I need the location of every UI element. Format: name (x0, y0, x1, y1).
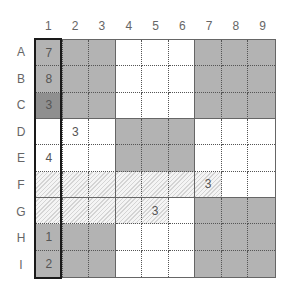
row-labels: ABCDEFGHI (12, 39, 30, 278)
row-label: B (12, 66, 30, 93)
column-label: 6 (169, 17, 196, 35)
column-label: 4 (115, 17, 142, 35)
grid-cell-h9[interactable] (248, 224, 275, 250)
grid-cell-f2[interactable] (63, 172, 90, 198)
grid-cell-h4[interactable] (116, 224, 143, 250)
grid-cell-b1[interactable]: 8 (36, 66, 63, 92)
grid-cell-g4[interactable] (116, 198, 143, 224)
sudoku-board: 783343312 (35, 39, 276, 278)
grid-cell-b2[interactable] (63, 66, 90, 92)
grid-cell-b4[interactable] (116, 66, 143, 92)
row-label: A (12, 39, 30, 66)
grid-cell-h7[interactable] (195, 224, 222, 250)
grid-cell-f8[interactable] (222, 172, 249, 198)
grid-cell-a6[interactable] (169, 40, 196, 66)
grid-cell-h2[interactable] (63, 224, 90, 250)
grid-cell-f6[interactable] (169, 172, 196, 198)
grid-cell-i9[interactable] (248, 251, 275, 277)
row-label: H (12, 225, 30, 252)
grid-cell-g9[interactable] (248, 198, 275, 224)
grid-cell-c4[interactable] (116, 93, 143, 119)
grid-cell-a5[interactable] (142, 40, 169, 66)
grid-cell-e2[interactable] (63, 145, 90, 171)
grid-cell-f1[interactable] (36, 172, 63, 198)
row-label: D (12, 119, 30, 146)
row-label: C (12, 92, 30, 119)
grid-cell-b6[interactable] (169, 66, 196, 92)
grid-cell-d2[interactable]: 3 (63, 119, 90, 145)
grid-cell-h6[interactable] (169, 224, 196, 250)
column-label: 5 (142, 17, 169, 35)
grid-cell-e8[interactable] (222, 145, 249, 171)
grid-cell-f5[interactable] (142, 172, 169, 198)
grid-cell-c5[interactable] (142, 93, 169, 119)
grid-cell-h3[interactable] (89, 224, 116, 250)
grid-cell-i8[interactable] (222, 251, 249, 277)
grid-cell-e4[interactable] (116, 145, 143, 171)
grid-cell-f4[interactable] (116, 172, 143, 198)
grid-cell-c1[interactable]: 3 (36, 93, 63, 119)
grid-cell-c7[interactable] (195, 93, 222, 119)
grid-cell-h8[interactable] (222, 224, 249, 250)
grid-cell-h5[interactable] (142, 224, 169, 250)
grid-cell-a7[interactable] (195, 40, 222, 66)
column-label: 1 (35, 17, 62, 35)
grid-cell-d6[interactable] (169, 119, 196, 145)
grid-cell-d5[interactable] (142, 119, 169, 145)
grid-cell-e1[interactable]: 4 (36, 145, 63, 171)
grid-cell-e6[interactable] (169, 145, 196, 171)
grid-cell-c6[interactable] (169, 93, 196, 119)
grid-cell-d7[interactable] (195, 119, 222, 145)
row-label: G (12, 198, 30, 225)
grid-cell-i3[interactable] (89, 251, 116, 277)
grid-cell-e9[interactable] (248, 145, 275, 171)
grid-cell-i2[interactable] (63, 251, 90, 277)
grid-cell-i4[interactable] (116, 251, 143, 277)
grid-cell-g8[interactable] (222, 198, 249, 224)
grid-cell-h1[interactable]: 1 (36, 224, 63, 250)
column-labels: 123456789 (35, 17, 276, 35)
grid-cell-a1[interactable]: 7 (36, 40, 63, 66)
grid-cell-d1[interactable] (36, 119, 63, 145)
grid-cell-d4[interactable] (116, 119, 143, 145)
grid-cell-i5[interactable] (142, 251, 169, 277)
grid-cell-c2[interactable] (63, 93, 90, 119)
grid-cell-i7[interactable] (195, 251, 222, 277)
grid-cell-b7[interactable] (195, 66, 222, 92)
row-label: F (12, 172, 30, 199)
grid-cell-g3[interactable] (89, 198, 116, 224)
grid-cell-b3[interactable] (89, 66, 116, 92)
grid-cell-i1[interactable]: 2 (36, 251, 63, 277)
column-label: 3 (89, 17, 116, 35)
grid-cell-e5[interactable] (142, 145, 169, 171)
grid-cell-c9[interactable] (248, 93, 275, 119)
grid-cell-a9[interactable] (248, 40, 275, 66)
grid-cell-a8[interactable] (222, 40, 249, 66)
grid-cell-b5[interactable] (142, 66, 169, 92)
grid-cell-g2[interactable] (63, 198, 90, 224)
grid-cell-g6[interactable] (169, 198, 196, 224)
column-label: 8 (222, 17, 249, 35)
grid-cell-f3[interactable] (89, 172, 116, 198)
grid-cell-c3[interactable] (89, 93, 116, 119)
grid-cell-g1[interactable] (36, 198, 63, 224)
grid-cell-d8[interactable] (222, 119, 249, 145)
grid-cell-g5[interactable]: 3 (142, 198, 169, 224)
grid-cell-b9[interactable] (248, 66, 275, 92)
grid-cell-i6[interactable] (169, 251, 196, 277)
column-label: 2 (62, 17, 89, 35)
grid-cell-a4[interactable] (116, 40, 143, 66)
grid-cell-a2[interactable] (63, 40, 90, 66)
grid-cell-f9[interactable] (248, 172, 275, 198)
grid-cell-d3[interactable] (89, 119, 116, 145)
grid-cell-g7[interactable] (195, 198, 222, 224)
grid-cell-e7[interactable] (195, 145, 222, 171)
grid-cell-e3[interactable] (89, 145, 116, 171)
grid-cell-c8[interactable] (222, 93, 249, 119)
grid-cell-d9[interactable] (248, 119, 275, 145)
row-label: I (12, 251, 30, 278)
column-label: 7 (196, 17, 223, 35)
grid-cell-f7[interactable]: 3 (195, 172, 222, 198)
grid-cell-a3[interactable] (89, 40, 116, 66)
grid-cell-b8[interactable] (222, 66, 249, 92)
